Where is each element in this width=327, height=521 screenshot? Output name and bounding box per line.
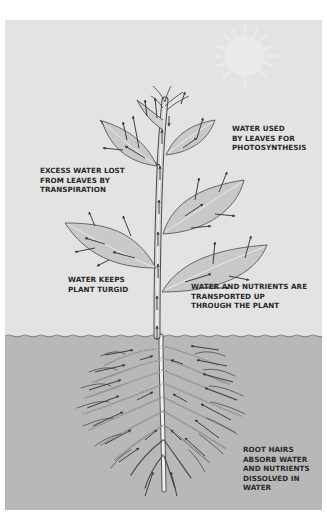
label-transport: WATER AND NUTRIENTS ARE TRANSPORTED UP T… <box>191 282 307 311</box>
plant-water-diagram: WATER USED BY LEAVES FOR PHOTOSYNTHESIS … <box>5 20 322 510</box>
label-root-hairs: ROOT HAIRS ABSORB WATER AND NUTRIENTS DI… <box>243 445 310 493</box>
label-transpiration: EXCESS WATER LOST FROM LEAVES BY TRANSPI… <box>40 166 125 195</box>
diagram-graphic <box>5 20 322 510</box>
label-photosynthesis: WATER USED BY LEAVES FOR PHOTOSYNTHESIS <box>232 124 306 153</box>
label-turgid: WATER KEEPS PLANT TURGID <box>68 275 128 294</box>
